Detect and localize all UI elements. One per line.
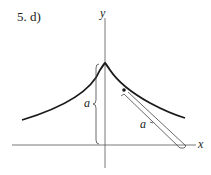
tractrix-curve — [22, 63, 185, 120]
y-axis-label: y — [100, 6, 105, 21]
curve-point — [122, 88, 126, 92]
tangent-line-1 — [124, 94, 180, 148]
tangent-length-label: a — [140, 117, 146, 132]
tangent-line-2 — [128, 92, 186, 146]
tangent-brace-tick — [150, 122, 153, 123]
vertical-brace — [93, 64, 99, 144]
x-axis-label: x — [198, 137, 203, 152]
tractrix-diagram — [0, 0, 211, 175]
vertical-length-label: a — [84, 96, 90, 111]
